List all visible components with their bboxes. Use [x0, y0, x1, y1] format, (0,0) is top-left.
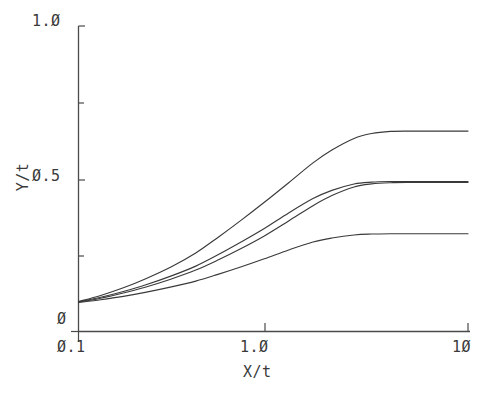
x-axis-tick-label-10: 1Ø — [452, 338, 471, 356]
data-curve-curve-4 — [79, 234, 469, 303]
data-curve-curve-3 — [79, 182, 469, 302]
x-axis-tick-label-1.0: 1.Ø — [240, 338, 269, 356]
axis-lines — [78, 26, 470, 332]
data-curve-curve-1 — [79, 131, 469, 301]
y-axis-title: Y/t — [14, 151, 32, 203]
y-axis-tick-label-0: Ø — [57, 310, 67, 328]
chart-figure: 1.Ø Ø.5 Ø Ø.1 1.Ø 1Ø X/t Y/t — [0, 0, 483, 395]
plot-canvas — [0, 0, 483, 395]
x-axis-title: X/t — [243, 363, 272, 381]
x-axis-tick-label-0.1: Ø.1 — [57, 338, 86, 356]
y-axis-tick-label-0.5: Ø.5 — [32, 167, 61, 185]
data-curve-curve-2 — [79, 181, 469, 301]
y-axis-tick-label-1.0: 1.Ø — [32, 12, 61, 30]
data-curves — [79, 131, 469, 302]
